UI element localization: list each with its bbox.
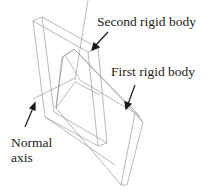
- second-rigid-body: [33, 17, 107, 146]
- wireframe-drawing: [0, 0, 209, 195]
- normal-axis-label: Normal axis: [11, 135, 52, 165]
- rigid-body-diagram: Second rigid body First rigid body Norma…: [0, 0, 209, 195]
- normal-axis-label-line2: axis: [11, 150, 52, 165]
- normal-axis-label-line1: Normal: [11, 135, 52, 150]
- second-rigid-body-label: Second rigid body: [97, 14, 196, 29]
- first-rigid-body-label: First rigid body: [111, 64, 195, 79]
